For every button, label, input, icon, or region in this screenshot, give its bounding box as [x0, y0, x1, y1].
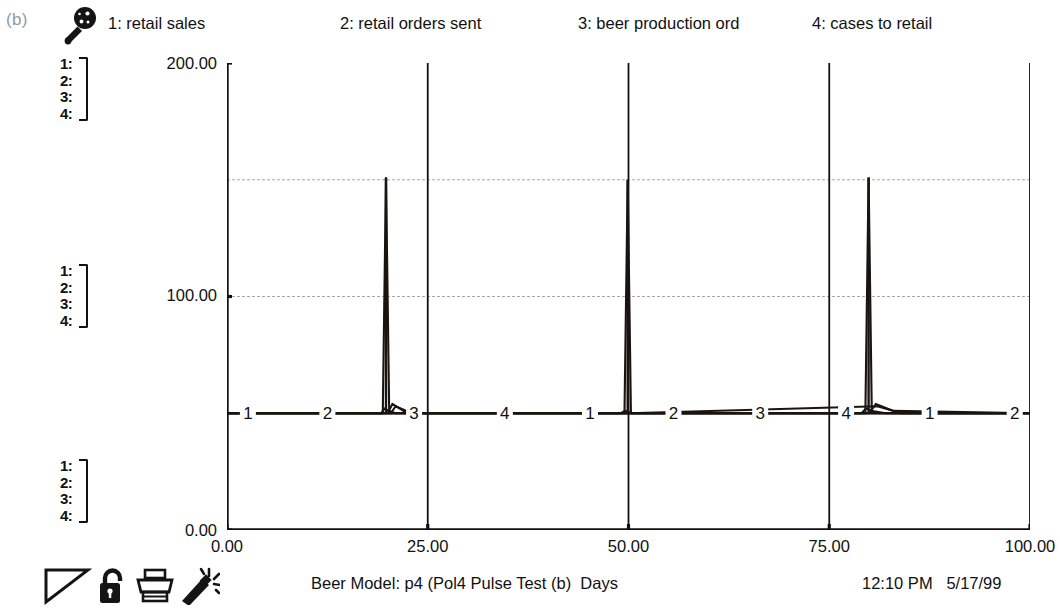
- lock-icon[interactable]: [98, 567, 130, 609]
- svg-text:2: 2: [323, 404, 332, 423]
- svg-text:4: 4: [500, 404, 509, 423]
- printer-icon[interactable]: [136, 567, 174, 609]
- legend-entry-2: 2: retail orders sent: [340, 14, 481, 33]
- svg-text:4: 4: [841, 404, 850, 423]
- svg-text:3: 3: [755, 404, 764, 423]
- triangle-icon[interactable]: [44, 567, 92, 609]
- scale-row-3: 3:: [60, 491, 72, 508]
- scale-row-4: 4:: [60, 313, 72, 330]
- svg-text:1: 1: [585, 404, 594, 423]
- scale-row-3: 3:: [60, 89, 72, 106]
- chart-footer-title: Beer Model: p4 (Pol4 Pulse Test (b) Days: [311, 574, 618, 593]
- y-tick-label: 200.00: [107, 54, 217, 73]
- scale-group-bottom[interactable]: 1: 2: 3: 4:: [60, 458, 94, 524]
- scale-row-4: 4:: [60, 106, 72, 123]
- scale-row-3: 3:: [60, 296, 72, 313]
- x-tick-label: 25.00: [383, 537, 473, 556]
- chart-footer-timestamp: 12:10 PM 5/17/99: [862, 574, 1001, 593]
- svg-text:2: 2: [669, 404, 678, 423]
- legend-entry-3: 3: beer production ord: [578, 14, 739, 33]
- scale-row-1: 1:: [60, 458, 72, 475]
- y-tick-label: 100.00: [107, 286, 217, 305]
- scale-row-2: 2:: [60, 475, 72, 492]
- x-tick-label: 50.00: [584, 537, 674, 556]
- x-tick-label: 0.00: [182, 537, 272, 556]
- scale-row-1: 1:: [60, 56, 72, 73]
- x-tick-label: 100.00: [985, 537, 1060, 556]
- scale-bracket-icon: [79, 264, 88, 328]
- scale-row-1: 1:: [60, 263, 72, 280]
- scale-group-top[interactable]: 1: 2: 3: 4:: [60, 56, 94, 122]
- scale-row-2: 2:: [60, 73, 72, 90]
- y-axis-labels: 200.00 100.00 0.00: [105, 0, 217, 560]
- x-axis-labels: 0.0025.0050.0075.00100.00: [0, 537, 1052, 563]
- scale-group-middle[interactable]: 1: 2: 3: 4:: [60, 263, 94, 329]
- chart-plot-area[interactable]: 1234123412: [227, 63, 1030, 530]
- scale-bracket-icon: [79, 459, 88, 523]
- svg-text:1: 1: [925, 404, 934, 423]
- series-layer: [227, 177, 1030, 413]
- svg-text:3: 3: [409, 404, 418, 423]
- magic-wand-icon[interactable]: [180, 567, 220, 609]
- svg-text:1: 1: [243, 404, 252, 423]
- chart-svg: 1234123412: [227, 63, 1030, 530]
- svg-text:2: 2: [1010, 404, 1019, 423]
- legend-entry-4: 4: cases to retail: [812, 14, 932, 33]
- x-tick-label: 75.00: [784, 537, 874, 556]
- scale-bracket-icon: [79, 57, 88, 121]
- scale-row-4: 4:: [60, 508, 72, 525]
- footer-toolbar[interactable]: [44, 567, 204, 607]
- scale-row-2: 2:: [60, 280, 72, 297]
